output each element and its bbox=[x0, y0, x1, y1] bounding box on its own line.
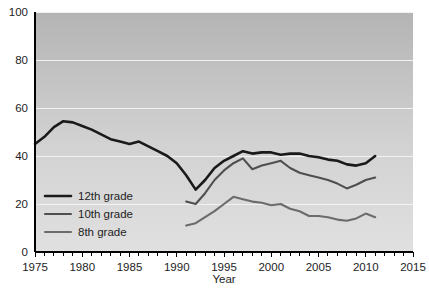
x-tick-label: 2010 bbox=[353, 261, 379, 273]
y-axis-ticks: 020406080100 bbox=[9, 6, 28, 258]
y-tick-label: 60 bbox=[15, 102, 28, 114]
y-tick-label: 100 bbox=[9, 6, 28, 18]
x-tick-label: 1980 bbox=[69, 261, 95, 273]
legend-label: 10th grade bbox=[78, 208, 133, 220]
y-tick-label: 40 bbox=[15, 150, 28, 162]
y-tick-label: 80 bbox=[15, 54, 28, 66]
x-tick-label: 2005 bbox=[306, 261, 332, 273]
x-tick-label: 1995 bbox=[211, 261, 237, 273]
x-tick-label: 1990 bbox=[164, 261, 190, 273]
legend-label: 8th grade bbox=[78, 226, 127, 238]
y-tick-label: 0 bbox=[22, 246, 28, 258]
x-tick-label: 1985 bbox=[117, 261, 143, 273]
y-tick-label: 20 bbox=[15, 198, 28, 210]
x-axis-title: Year bbox=[212, 273, 235, 285]
x-axis-ticks: 197519801985199019952000200520102015 bbox=[22, 252, 426, 273]
x-tick-label: 2000 bbox=[258, 261, 284, 273]
chart-container: 020406080100 197519801985199019952000200… bbox=[0, 0, 429, 300]
x-tick-label: 1975 bbox=[22, 261, 48, 273]
line-chart: 020406080100 197519801985199019952000200… bbox=[0, 0, 429, 300]
legend-label: 12th grade bbox=[78, 190, 133, 202]
x-tick-label: 2015 bbox=[400, 261, 426, 273]
